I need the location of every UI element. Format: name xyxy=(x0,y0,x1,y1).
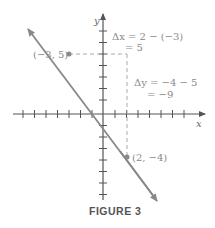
coordinate-plane-figure: x y (−3, 5) (2, −4) Δx = xyxy=(0,0,215,228)
x-axis xyxy=(13,110,205,118)
delta-x-annotation-line1: Δx = 2 − (−3) xyxy=(112,31,183,42)
y-axis-label: y xyxy=(93,15,100,26)
figure-caption: FIGURE 3 xyxy=(89,205,141,217)
delta-y-annotation-line2: = −9 xyxy=(147,89,173,100)
point-label-2: (2, −4) xyxy=(132,152,167,163)
y-axis xyxy=(99,14,107,200)
point-2-neg4 xyxy=(125,155,130,160)
delta-x-annotation-line2: = 5 xyxy=(125,42,143,53)
dashed-guides xyxy=(69,54,127,157)
x-axis-label: x xyxy=(196,118,202,129)
point-label-1: (−3, 5) xyxy=(33,49,68,60)
delta-y-annotation-line1: Δy = −4 − 5 xyxy=(134,77,197,88)
